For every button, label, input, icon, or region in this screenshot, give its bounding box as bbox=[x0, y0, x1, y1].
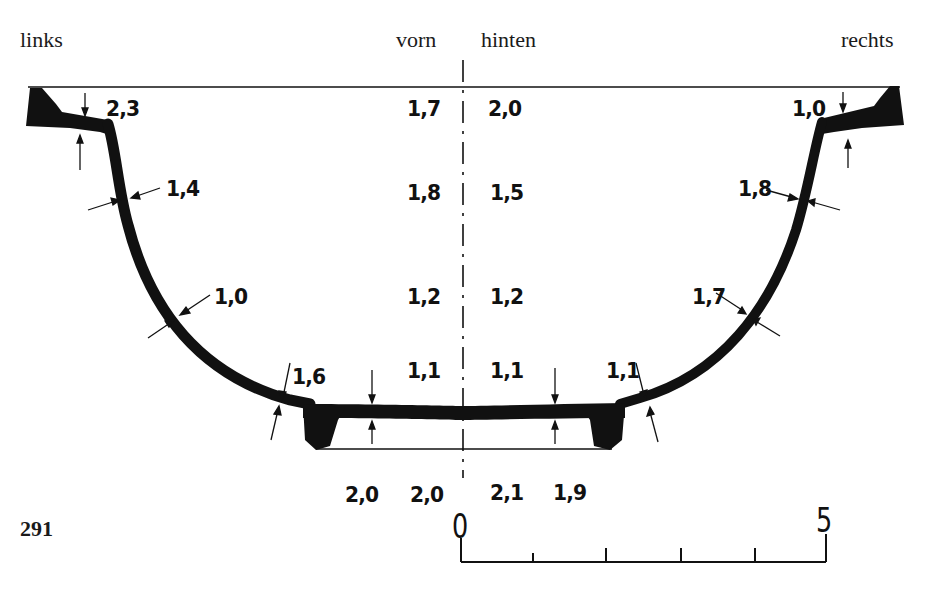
right-rim bbox=[818, 86, 904, 134]
label-right-upper-wall: 1,8 bbox=[738, 176, 771, 201]
left-rim bbox=[26, 88, 115, 136]
left-wall bbox=[108, 124, 310, 404]
label-floor-3: 2,1 bbox=[490, 480, 523, 505]
label-left-upper-wall: 1,4 bbox=[166, 176, 199, 201]
label-right-lower-wall: 1,1 bbox=[606, 358, 639, 383]
label-floor-4: 1,9 bbox=[553, 480, 586, 505]
scale-end-label: 5 bbox=[816, 500, 832, 540]
label-floor-1: 2,0 bbox=[345, 482, 378, 507]
label-right-rim: 1,0 bbox=[792, 96, 825, 121]
label-center-front-4: 1,1 bbox=[407, 358, 440, 383]
label-center-front-3: 1,2 bbox=[407, 284, 440, 309]
right-foot bbox=[582, 403, 625, 450]
label-right-mid-wall: 1,7 bbox=[692, 284, 725, 309]
label-center-back-4: 1,1 bbox=[490, 358, 523, 383]
dimension-arrows bbox=[77, 92, 851, 444]
label-center-front-1: 1,7 bbox=[407, 96, 440, 121]
label-center-back-3: 1,2 bbox=[490, 284, 523, 309]
label-center-back-1: 2,0 bbox=[488, 96, 521, 121]
figure-number: 291 bbox=[20, 516, 53, 542]
label-left-lower-wall: 1,6 bbox=[292, 364, 325, 389]
label-center-front-2: 1,8 bbox=[407, 180, 440, 205]
scale-bar bbox=[461, 534, 826, 562]
label-left-mid-wall: 1,0 bbox=[214, 284, 247, 309]
floor-plate bbox=[303, 403, 625, 420]
label-floor-2: 2,0 bbox=[410, 482, 443, 507]
label-center-back-2: 1,5 bbox=[490, 180, 523, 205]
scale-start-label: 0 bbox=[452, 506, 468, 546]
cross-section-drawing bbox=[0, 0, 927, 591]
left-foot bbox=[303, 404, 345, 450]
right-wall bbox=[620, 122, 822, 404]
label-left-rim: 2,3 bbox=[106, 96, 139, 121]
